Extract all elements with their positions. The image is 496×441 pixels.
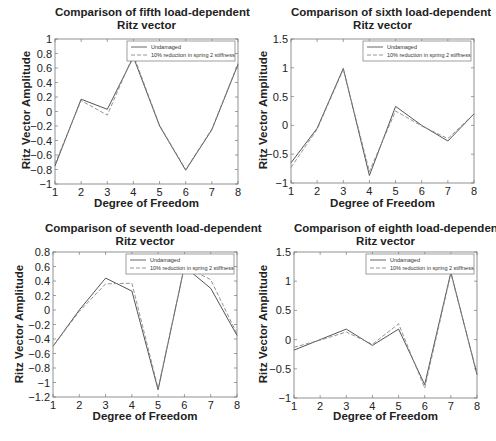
plot-area: −1−0.500.511.512345678Undamaged10% reduc…	[0, 0, 496, 441]
x-tick-label: 7	[448, 400, 454, 412]
x-tick-label: 1	[291, 400, 297, 412]
x-tick-label: 2	[317, 400, 323, 412]
y-tick-label: −0.5	[269, 363, 291, 375]
legend-label-undamaged: Undamaged	[390, 257, 420, 263]
y-tick-label: −1	[278, 392, 291, 404]
legend: Undamaged10% reduction in spring 2 stiff…	[366, 254, 474, 274]
y-tick-label: 1	[285, 275, 291, 287]
x-tick-label: 5	[396, 400, 402, 412]
x-tick-label: 3	[343, 400, 349, 412]
x-tick-label: 4	[369, 400, 375, 412]
x-tick-label: 6	[422, 400, 428, 412]
y-tick-label: 1.5	[276, 246, 291, 258]
y-tick-label: 0	[285, 334, 291, 346]
y-tick-label: 0.5	[276, 304, 291, 316]
legend-label-damaged: 10% reduction in spring 2 stiffness	[390, 265, 474, 271]
x-tick-label: 8	[474, 400, 480, 412]
